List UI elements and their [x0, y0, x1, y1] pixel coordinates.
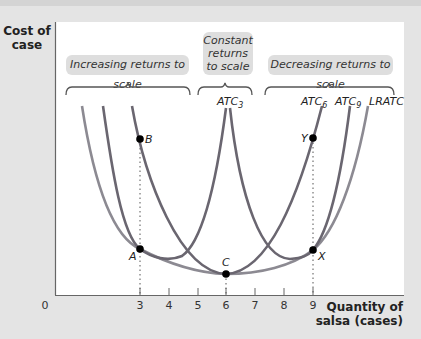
point-c-label: C — [222, 256, 230, 269]
point-x-label: X — [318, 250, 326, 263]
chart-svg — [0, 0, 421, 339]
point-y-label: Y — [301, 132, 308, 145]
point-b-marker — [136, 135, 144, 143]
atc3-label: ATC3 — [217, 95, 243, 110]
atc6-label: ATC6 — [301, 95, 327, 110]
point-a-marker — [136, 245, 144, 253]
bracket-decreasing — [265, 83, 394, 95]
lratc-label: LRATC — [369, 95, 404, 108]
point-a-label: A — [129, 250, 137, 263]
region-brackets — [66, 83, 394, 95]
atc6-curve — [132, 106, 322, 274]
atc3-curve — [103, 106, 226, 259]
x-ticks — [140, 288, 313, 295]
point-x-marker — [309, 246, 317, 254]
point-b-label: B — [145, 133, 153, 146]
point-c-marker — [222, 270, 230, 278]
bracket-constant — [198, 83, 252, 95]
bracket-increasing — [66, 83, 190, 95]
atc9-label: ATC9 — [335, 95, 361, 110]
point-y-marker — [309, 134, 317, 142]
atc9-curve — [230, 106, 350, 259]
lratc-curve — [82, 106, 368, 274]
